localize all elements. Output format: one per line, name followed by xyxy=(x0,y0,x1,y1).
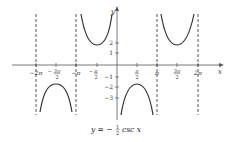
svg-text:−: − xyxy=(48,68,52,74)
svg-text:y = −: y = − xyxy=(90,125,113,134)
tick-y-neg-3: −3 xyxy=(104,94,113,101)
tick-neg-3pi-2: − 3π 2 xyxy=(48,68,61,80)
svg-text:2: 2 xyxy=(135,74,138,80)
branch-pi-2pi xyxy=(161,14,194,45)
tick-3pi-2: 3π 2 xyxy=(174,68,181,80)
tick-y-neg-1: −1 xyxy=(104,73,113,80)
tick-2pi: 2π xyxy=(193,69,203,76)
y-axis-arrow-icon xyxy=(115,6,119,11)
branch-neg-2pi-neg-pi xyxy=(40,84,72,112)
svg-text:2: 2 xyxy=(116,130,119,136)
tick-neg-pi: −π xyxy=(72,69,82,76)
branch-neg-pi-0 xyxy=(81,14,112,45)
equation-caption: y = − 1 2 csc x xyxy=(90,124,142,137)
tick-pi-2: π 2 xyxy=(134,68,139,80)
svg-text:2: 2 xyxy=(94,74,97,80)
y-axis-label: y xyxy=(110,8,116,16)
tick-y-2: 2 xyxy=(109,39,113,46)
x-axis-arrow-icon xyxy=(219,63,224,67)
x-axis-label: x xyxy=(218,68,222,76)
branch-0-pi xyxy=(121,84,153,115)
svg-text:1: 1 xyxy=(116,124,119,130)
svg-text:2: 2 xyxy=(55,74,58,80)
tick-neg-2pi: −2π xyxy=(30,69,44,76)
tick-y-neg-2: −2 xyxy=(104,83,113,90)
svg-text:csc x: csc x xyxy=(122,125,142,134)
csc-graph: y x −2π − 3π 2 −π − π 2 π 2 π 3π 2 2π 2 … xyxy=(0,0,236,142)
tick-pi: π xyxy=(154,69,160,76)
svg-text:2: 2 xyxy=(175,74,178,80)
svg-text:−: − xyxy=(89,68,93,74)
tick-neg-pi-2: − π 2 xyxy=(89,68,99,80)
tick-y-1: 1 xyxy=(109,49,113,56)
